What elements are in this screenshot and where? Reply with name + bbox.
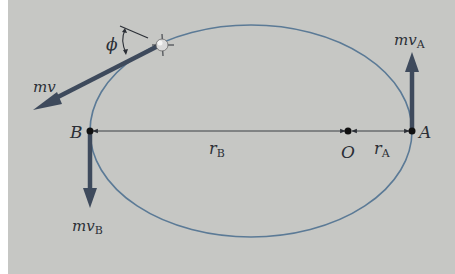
label-o: O xyxy=(341,142,355,162)
diagram-canvas: mv ϕ mvA mvB B A O rB rA xyxy=(0,0,455,274)
label-r-b: rB xyxy=(209,139,225,160)
label-phi: ϕ xyxy=(106,34,118,54)
point-b-dot xyxy=(87,128,94,135)
point-a-dot xyxy=(409,128,416,135)
momentum-b-arrow xyxy=(83,131,97,208)
particle xyxy=(152,34,174,56)
focus-o-dot xyxy=(345,128,352,135)
label-mv-b: mvB xyxy=(72,217,103,237)
orbit-diagram: mv ϕ mvA mvB B A O rB rA xyxy=(0,0,455,274)
momentum-a-arrow xyxy=(405,52,419,131)
label-b: B xyxy=(69,122,83,142)
label-r-a: rA xyxy=(374,139,391,160)
label-a: A xyxy=(417,122,431,142)
label-mv: mv xyxy=(33,78,56,96)
label-mv-a: mvA xyxy=(394,31,426,51)
